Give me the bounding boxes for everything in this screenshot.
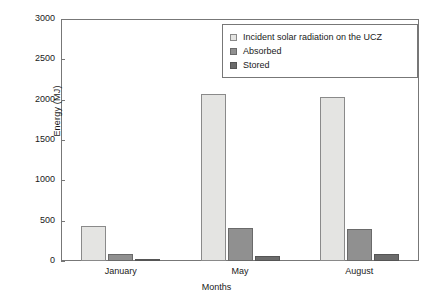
bar-august-series2: [374, 254, 399, 261]
bar-january-series2: [135, 259, 160, 261]
y-tick-label: 2500: [35, 53, 55, 63]
legend-swatch-icon: [230, 48, 237, 55]
legend-item-0: Incident solar radiation on the UCZ: [230, 31, 408, 43]
legend-item-2: Stored: [230, 59, 408, 71]
x-axis-title: Months: [0, 282, 433, 292]
legend-swatch-icon: [230, 62, 237, 69]
legend-label: Absorbed: [243, 46, 282, 56]
y-tick-label: 2000: [35, 94, 55, 104]
y-tick-label: 500: [40, 215, 55, 225]
bar-august-series0: [320, 97, 345, 261]
legend-swatch-icon: [230, 34, 237, 41]
x-tick-label-august: August: [309, 266, 409, 276]
bar-january-series0: [81, 226, 106, 261]
y-tick-label: 1000: [35, 174, 55, 184]
chart-figure: Energy (MJ) 050010001500200025003000 Jan…: [0, 0, 433, 305]
x-tick-label-january: January: [71, 266, 171, 276]
bar-may-series1: [228, 228, 253, 261]
legend-label: Stored: [243, 60, 270, 70]
y-tick-mark: [61, 261, 65, 262]
bar-may-series0: [201, 94, 226, 261]
bar-august-series1: [347, 229, 372, 261]
legend-label: Incident solar radiation on the UCZ: [243, 32, 382, 42]
bar-january-series1: [108, 254, 133, 261]
chart-legend: Incident solar radiation on the UCZAbsor…: [222, 24, 418, 78]
bar-may-series2: [255, 256, 280, 261]
y-tick-label: 1500: [35, 134, 55, 144]
y-tick-label: 3000: [35, 13, 55, 23]
x-tick-label-may: May: [190, 266, 290, 276]
legend-item-1: Absorbed: [230, 45, 408, 57]
y-tick-label: 0: [50, 255, 55, 265]
